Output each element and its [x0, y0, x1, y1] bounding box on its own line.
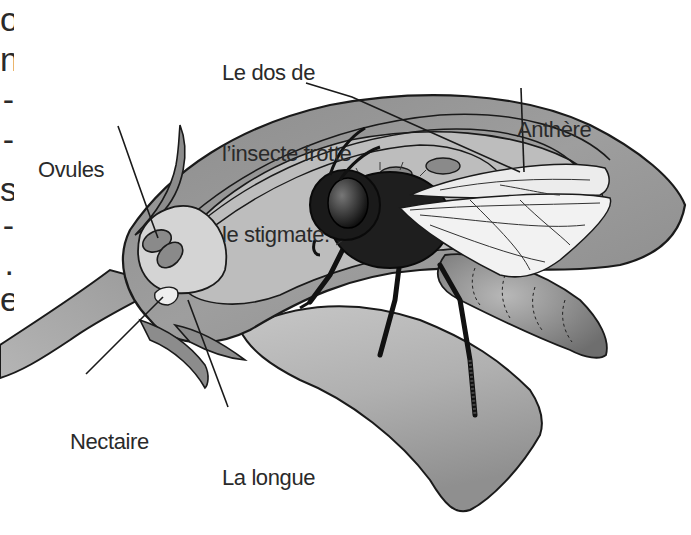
- label-anther: Anthère: [517, 62, 591, 197]
- label-stigma: Le dos de l’insecte frotte le stigmate.: [222, 5, 351, 302]
- label-nectary: Nectaire: [70, 374, 149, 509]
- label-ovules: Ovules: [38, 102, 104, 237]
- pollination-diagram: o n - - s - . e: [0, 0, 691, 535]
- stigma: [426, 158, 460, 174]
- label-tongue: La longue langue atteint le nectar.: [222, 410, 349, 535]
